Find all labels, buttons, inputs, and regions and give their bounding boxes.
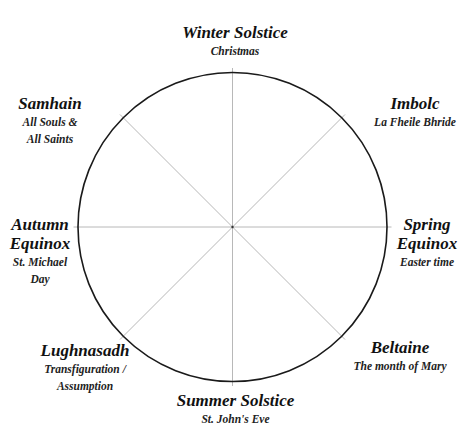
festival-name-line1: Spring (387, 216, 467, 233)
label-beltaine: Beltaine The month of Mary (335, 339, 465, 375)
christian-feast-line2: All Saints (0, 131, 100, 148)
center-point (231, 226, 233, 228)
festival-name: Lughnasadh (20, 342, 150, 359)
festival-name: Winter Solstice (150, 24, 320, 41)
label-samhain: Samhain All Souls & All Saints (0, 95, 100, 148)
label-spring-equinox: Spring Equinox Easter time (387, 216, 467, 271)
label-summer-solstice: Summer Solstice St. John's Eve (148, 392, 323, 428)
christian-feast: Easter time (387, 254, 467, 271)
label-imbolc: Imbolc La Fheile Bhride (355, 95, 470, 131)
christian-feast: St. John's Eve (148, 411, 323, 428)
label-lughnasadh: Lughnasadh Transfiguration / Assumption (20, 342, 150, 395)
festival-name: Beltaine (335, 339, 465, 356)
christian-feast: The month of Mary (335, 358, 465, 375)
christian-feast-line1: All Souls & (0, 114, 100, 131)
christian-feast-line2: Day (0, 271, 80, 288)
festival-name: Samhain (0, 95, 100, 112)
festival-name-line1: Autumn (0, 216, 80, 233)
label-autumn-equinox: Autumn Equinox St. Michael Day (0, 216, 80, 288)
festival-name-line2: Equinox (0, 235, 80, 252)
christian-feast-line1: St. Michael (0, 254, 80, 271)
festival-name: Summer Solstice (148, 392, 323, 409)
christian-feast: Christmas (150, 43, 320, 60)
christian-feast-line2: Assumption (20, 378, 150, 395)
festival-name: Imbolc (355, 95, 470, 112)
christian-feast: La Fheile Bhride (355, 114, 470, 131)
festival-name-line2: Equinox (387, 235, 467, 252)
christian-feast-line1: Transfiguration / (20, 361, 150, 378)
label-winter-solstice: Winter Solstice Christmas (150, 24, 320, 60)
